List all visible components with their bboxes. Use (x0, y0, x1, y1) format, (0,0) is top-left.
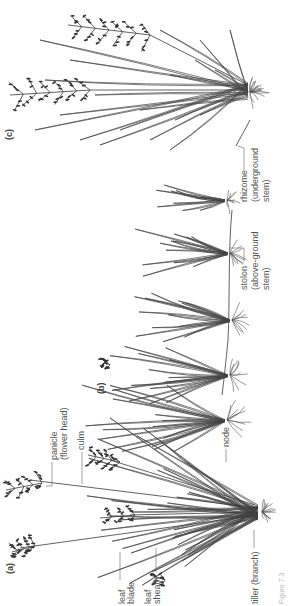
spikelet (22, 536, 26, 540)
above-ground-label: (above-ground (250, 231, 260, 290)
spikelet (96, 449, 101, 451)
panicle-label: panicle (49, 431, 59, 460)
leaf-sheath-label-2: sheath (152, 577, 162, 604)
spikelet (25, 100, 30, 104)
node-label: node (221, 427, 231, 447)
spikelet (28, 80, 33, 82)
panel-c-panicle-branch (124, 22, 137, 34)
grass-growth-forms-figure: (a) (b) (c) panicle (flower head) culm n… (0, 0, 288, 606)
spikelet (71, 36, 76, 40)
spikelet (70, 15, 74, 17)
spikelet (84, 39, 89, 42)
panel-c-panicle-branch (55, 82, 64, 92)
spikelet (80, 97, 84, 101)
spikelet (130, 26, 135, 29)
panel-c-panicle-branch (75, 79, 90, 90)
spikelet (29, 95, 34, 99)
spikelet (28, 534, 32, 536)
spikelet (65, 98, 70, 101)
panel-b-drawing (82, 185, 251, 451)
panel-c-label: (c) (4, 129, 14, 140)
panel-a-panicle-branch (23, 538, 29, 547)
rhizome-stem-label: stem) (261, 179, 271, 202)
leaf-blade-label-2: blade (126, 582, 136, 604)
panel-c-panicle-branch (100, 20, 109, 30)
figure-caption: Figure 7.3 (278, 572, 286, 604)
panel-a-culm (20, 515, 258, 548)
spikelet (38, 81, 42, 83)
panel-c-leaf (80, 83, 248, 140)
spikelet (108, 469, 112, 471)
panel-b-root (230, 375, 246, 385)
spikelet (102, 34, 107, 36)
spikelet (130, 35, 134, 39)
panel-c-panicle-branch (14, 94, 23, 111)
rhizome-leader (238, 146, 244, 170)
panel-c-panicle-branch (126, 33, 136, 45)
panel-b-leaf (138, 354, 228, 377)
spikelet (92, 452, 96, 456)
panel-c-panicle-branch (113, 32, 123, 47)
spikelet (100, 467, 105, 470)
rhizome-label: rhizome (239, 170, 249, 202)
spikelet (98, 358, 102, 360)
spikelet (82, 14, 87, 18)
spikelet (21, 475, 26, 478)
spikelet (122, 21, 126, 23)
panel-b-root (230, 375, 239, 390)
panel-c-leaf (230, 30, 248, 92)
spikelet (4, 495, 9, 498)
spikelet (28, 537, 33, 539)
stolon-stem-label: stem) (261, 267, 271, 290)
culm-label: culm (76, 431, 86, 450)
spikelet (127, 508, 131, 510)
panel-a-leaf (130, 516, 258, 583)
spikelet (58, 87, 63, 90)
panel-b-label: (b) (96, 383, 106, 395)
flower-head-label: (flower head) (59, 407, 69, 460)
spikelet (18, 100, 23, 103)
stolon-label: stolon (239, 266, 249, 290)
underground-label: (underground (250, 148, 260, 202)
spikelet (31, 542, 36, 544)
panel-b-root (232, 320, 240, 335)
spikelet (158, 572, 163, 576)
spikelet (26, 78, 31, 80)
panel-c-leaf (160, 30, 248, 85)
panel-a-label: (a) (5, 563, 15, 574)
panel-b-root (227, 200, 230, 214)
spikelet (12, 109, 17, 112)
spikelet (144, 30, 149, 33)
panel-c-leaf (100, 89, 248, 145)
spikelet (16, 497, 20, 499)
panel-c-drawing (8, 14, 269, 150)
spikelet (89, 446, 94, 449)
rhizome-stem (236, 120, 250, 146)
spikelet (16, 105, 20, 107)
spikelet (12, 85, 16, 89)
spikelet (74, 33, 79, 35)
tiller-label: tiller (branch) (250, 551, 260, 604)
spikelet (125, 26, 130, 28)
spikelet (22, 103, 26, 107)
spikelet (102, 25, 107, 27)
